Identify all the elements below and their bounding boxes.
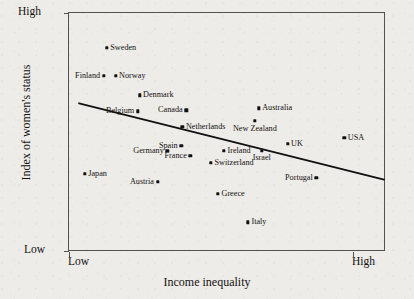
data-point-label: Greece	[221, 189, 244, 197]
y-axis-low-label: Low	[24, 243, 45, 255]
data-point-label: Finland	[75, 71, 100, 79]
data-point-label: Belgium	[106, 107, 134, 115]
x-axis-high-label: High	[352, 255, 375, 267]
x-axis-low-label: Low	[68, 255, 89, 267]
plot-area: SwedenFinlandNorwayDenmarkBelgiumCanadaN…	[68, 12, 385, 251]
data-point-label: Denmark	[143, 91, 173, 99]
data-point-label: France	[164, 152, 186, 160]
y-axis-title: Index of women's status	[19, 3, 34, 243]
data-point-label: Netherlands	[186, 123, 226, 131]
data-point-label: Austria	[130, 177, 154, 185]
data-point-label: Portugal	[285, 174, 313, 182]
data-point-label: Italy	[251, 218, 266, 226]
data-point-label: Switzerland	[215, 159, 254, 167]
data-point-label: Israel	[253, 154, 271, 162]
data-point-label: Japan	[88, 170, 107, 178]
data-point-label: Germany	[133, 147, 163, 155]
data-point-label: Australia	[262, 104, 292, 112]
data-point-label: USA	[348, 134, 364, 142]
data-point-label: Norway	[119, 71, 145, 79]
data-point-label: New Zealand	[233, 125, 277, 133]
data-point-label: Canada	[158, 106, 183, 114]
data-point-label: UK	[291, 140, 303, 148]
scatter-chart-figure: SwedenFinlandNorwayDenmarkBelgiumCanadaN…	[0, 0, 414, 299]
data-point-label: Ireland	[227, 147, 250, 155]
data-point-label: Sweden	[110, 43, 136, 51]
x-axis-title: Income inequality	[0, 275, 414, 290]
